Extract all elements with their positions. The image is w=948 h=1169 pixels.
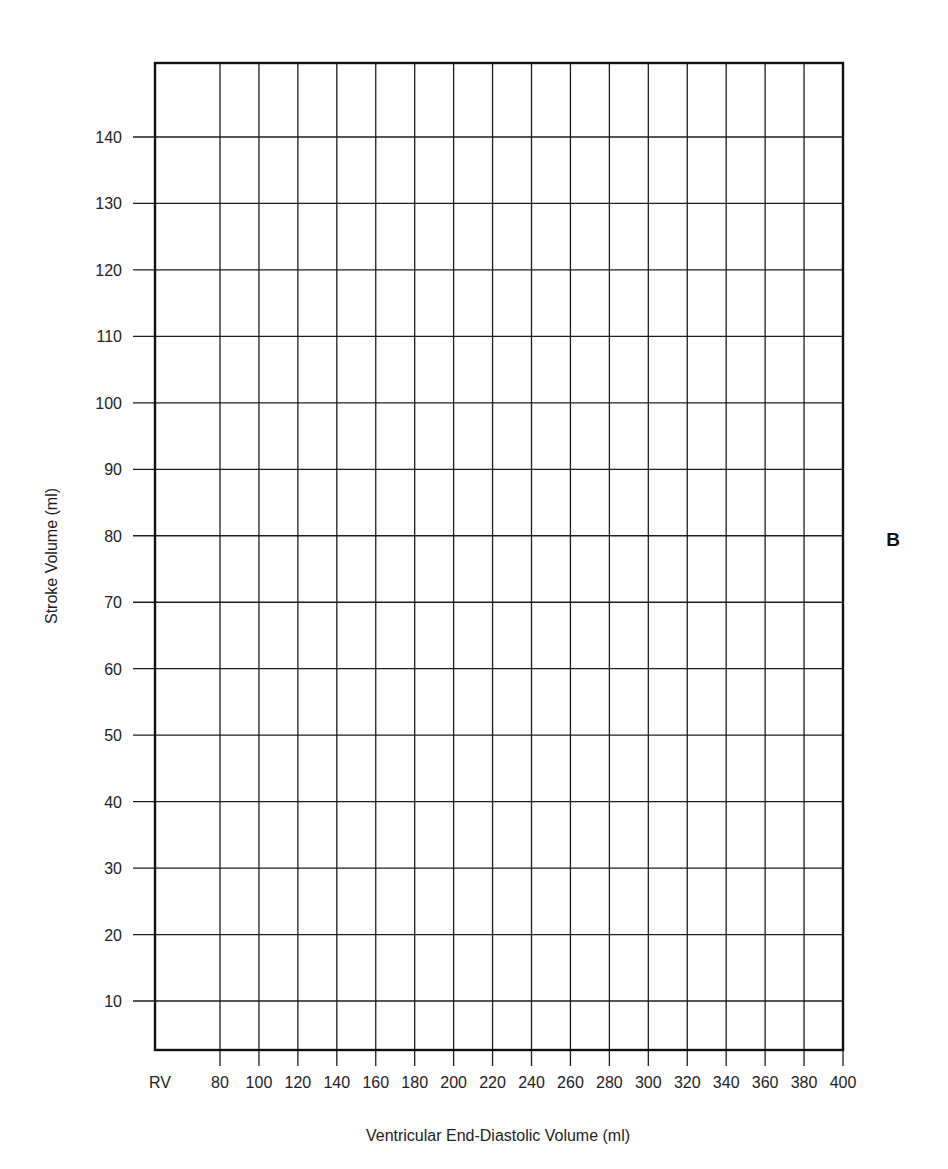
vertical-grid-lines (220, 63, 843, 1066)
x-tick-label-240: 240 (518, 1074, 545, 1091)
x-axis-tick-labels: RV80100120140160180200220240260280300320… (149, 1074, 856, 1091)
x-tick-label-140: 140 (323, 1074, 350, 1091)
y-tick-label-20: 20 (104, 927, 122, 944)
panel-label: B (886, 529, 900, 550)
y-tick-label-80: 80 (104, 528, 122, 545)
x-tick-label-320: 320 (674, 1074, 701, 1091)
y-tick-label-140: 140 (95, 129, 122, 146)
horizontal-grid-lines (133, 137, 843, 1001)
x-tick-label-rv: RV (149, 1074, 171, 1091)
y-tick-label-120: 120 (95, 262, 122, 279)
x-tick-label-120: 120 (285, 1074, 312, 1091)
y-axis-tick-labels: 102030405060708090100110120130140 (95, 129, 122, 1010)
y-tick-label-90: 90 (104, 461, 122, 478)
y-tick-label-10: 10 (104, 993, 122, 1010)
x-tick-label-400: 400 (830, 1074, 857, 1091)
x-tick-label-340: 340 (713, 1074, 740, 1091)
x-tick-label-360: 360 (752, 1074, 779, 1091)
y-tick-label-70: 70 (104, 594, 122, 611)
y-tick-label-130: 130 (95, 195, 122, 212)
x-tick-label-80: 80 (211, 1074, 229, 1091)
x-tick-label-200: 200 (440, 1074, 467, 1091)
x-tick-label-300: 300 (635, 1074, 662, 1091)
x-tick-label-260: 260 (557, 1074, 584, 1091)
x-tick-label-220: 220 (479, 1074, 506, 1091)
plot-frame (155, 63, 843, 1050)
y-tick-label-110: 110 (96, 328, 122, 345)
y-tick-label-50: 50 (104, 727, 122, 744)
y-tick-label-30: 30 (104, 860, 122, 877)
y-axis-title: Stroke Volume (ml) (43, 488, 60, 624)
x-tick-label-180: 180 (401, 1074, 428, 1091)
y-tick-label-40: 40 (104, 794, 122, 811)
x-tick-label-380: 380 (791, 1074, 818, 1091)
stroke-volume-chart: RV80100120140160180200220240260280300320… (0, 0, 948, 1169)
y-tick-label-100: 100 (95, 395, 122, 412)
x-axis-title: Ventricular End-Diastolic Volume (ml) (366, 1127, 630, 1144)
x-tick-label-100: 100 (246, 1074, 273, 1091)
x-tick-label-280: 280 (596, 1074, 623, 1091)
x-tick-label-160: 160 (362, 1074, 389, 1091)
y-tick-label-60: 60 (104, 661, 122, 678)
